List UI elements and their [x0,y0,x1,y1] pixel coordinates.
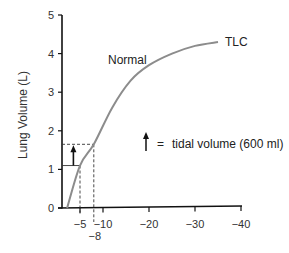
legend: = tidal volume (600 ml) [143,132,283,151]
legend-equals: = [157,137,164,151]
y-tick-label: 0 [48,202,54,214]
up-arrow-icon [143,132,149,151]
y-tick-label: 1 [48,163,54,175]
tlc-label: TLC [225,35,248,49]
x-tick-label: −30 [186,218,205,230]
x-tick-label: −40 [232,218,251,230]
x-axis [58,206,242,208]
y-axis-label: Lung Volume (L) [16,71,30,159]
x-tick-label: −5 [74,218,87,230]
tidal-volume-arrow [70,145,76,165]
dashed-guides [62,144,94,222]
axes [58,15,242,209]
y-tick-label: 4 [48,48,54,60]
pressure-volume-chart: 012345−5−10−20−30−40−8 Normal TLC = tida… [0,0,289,253]
legend-text: tidal volume (600 ml) [172,137,283,151]
x-tick-label: −10 [94,218,113,230]
x-tick-label-minus8: −8 [89,230,102,242]
y-tick-label: 2 [48,125,54,137]
y-tick-label: 3 [48,86,54,98]
x-tick-label: −20 [140,218,159,230]
y-tick-label: 5 [48,9,54,21]
normal-label: Normal [108,53,147,67]
